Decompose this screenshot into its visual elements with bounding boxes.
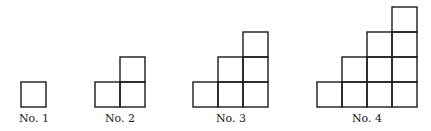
square-cell (243, 82, 268, 107)
square-cell (367, 57, 392, 82)
square-cell (120, 82, 145, 107)
figure-3 (193, 32, 268, 107)
square-cell (243, 57, 268, 82)
square-cell (218, 82, 243, 107)
figure-4 (317, 7, 417, 107)
square-cell (243, 32, 268, 57)
square-cell (342, 57, 367, 82)
square-cell (392, 7, 417, 32)
square-cell (342, 82, 367, 107)
square-cell (392, 32, 417, 57)
figure-label-4: No. 4 (352, 112, 382, 125)
figure-1 (21, 82, 46, 107)
figure-label-3: No. 3 (216, 112, 246, 125)
figure-label-1: No. 1 (19, 112, 49, 125)
square-cell (95, 82, 120, 107)
square-cell (218, 57, 243, 82)
square-cell (21, 82, 46, 107)
square-cell (367, 32, 392, 57)
square-cell (392, 82, 417, 107)
figure-label-2: No. 2 (105, 112, 135, 125)
square-cell (317, 82, 342, 107)
square-cell (367, 82, 392, 107)
square-cell (392, 57, 417, 82)
figure-2 (95, 57, 145, 107)
square-cell (193, 82, 218, 107)
square-cell (120, 57, 145, 82)
